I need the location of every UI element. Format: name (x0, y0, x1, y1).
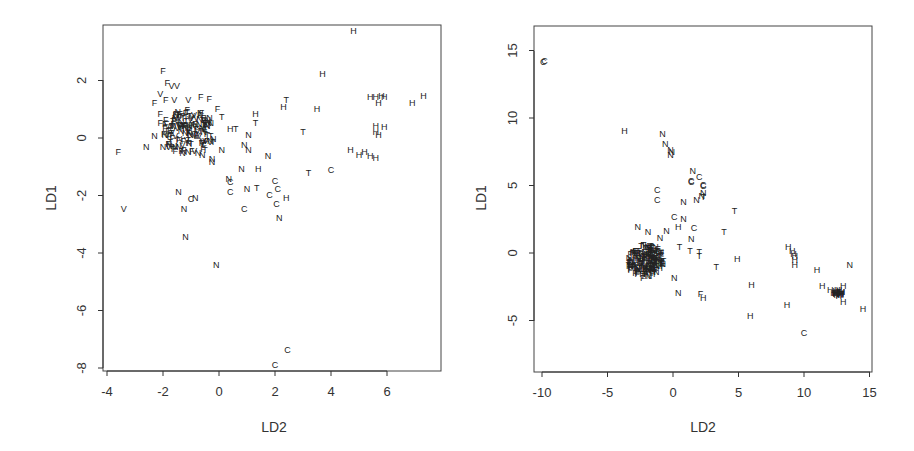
data-point-h: H (280, 102, 287, 112)
data-point-t: T (696, 251, 702, 261)
y-tick-label: -8 (74, 362, 89, 374)
cluster-point: F (199, 138, 205, 148)
data-point-n: N (213, 260, 220, 270)
data-point-h: H (748, 280, 755, 290)
data-point-n: N (659, 129, 666, 139)
x-tick-label: 5 (735, 385, 742, 400)
x-tick-label: 10 (797, 385, 811, 400)
data-point-t: T (713, 262, 719, 272)
data-point-h: H (375, 130, 382, 140)
data-point-n: N (244, 184, 251, 194)
x-tick-label: -5 (602, 385, 614, 400)
data-point-n: N (182, 232, 189, 242)
data-point-t: T (700, 192, 706, 202)
data-point-t: T (677, 242, 683, 252)
data-point-f: F (206, 94, 212, 104)
data-point-n: N (245, 145, 252, 155)
data-point-h: H (700, 293, 707, 303)
right-scatter-plot: -10-5051015 -5051015 LD2 LD1 CCHNNNNNNCC… (473, 26, 877, 435)
data-point-n: N (680, 197, 687, 207)
cluster-point: T (187, 111, 193, 121)
data-point-h: H (350, 26, 357, 36)
data-point-h: H (255, 164, 262, 174)
data-point-h: H (747, 311, 754, 321)
data-point-v: V (171, 95, 177, 105)
x-tick-label: -4 (101, 384, 113, 399)
cluster-point: F (165, 139, 171, 149)
y-axis-title: LD1 (473, 185, 489, 211)
y-axis-title: LD1 (43, 185, 59, 211)
data-point-n: N (265, 151, 272, 161)
data-point-t: T (219, 112, 225, 122)
data-point-n: N (175, 187, 182, 197)
data-point-c: C (266, 190, 273, 200)
data-point-h: H (381, 122, 388, 132)
data-point-n: N (209, 157, 216, 167)
data-point-t: T (233, 124, 239, 134)
data-point-c: C (654, 195, 661, 205)
data-point-h: H (409, 98, 416, 108)
cluster-point: N (192, 120, 199, 130)
data-point-t: T (253, 118, 259, 128)
x-tick-label: 15 (862, 385, 876, 400)
y-axis-ticks: -8-6-4-202 (74, 77, 103, 374)
data-point-h: H (675, 222, 682, 232)
data-point-f: F (152, 98, 158, 108)
data-point-c: C (272, 360, 279, 370)
data-point-n: N (645, 227, 652, 237)
data-point-n: N (675, 288, 682, 298)
data-point-h: H (814, 265, 821, 275)
cluster-point: N (207, 118, 214, 128)
cluster-point: V (169, 121, 175, 131)
x-tick-label: 6 (383, 384, 390, 399)
data-point-c: C (227, 177, 234, 187)
y-tick-label: 10 (505, 111, 520, 125)
data-point-f: F (115, 147, 121, 157)
data-point-c: C (284, 345, 291, 355)
data-point-h: H (621, 126, 628, 136)
y-tick-label: 0 (74, 134, 89, 141)
x-tick-label: 0 (215, 384, 222, 399)
data-point-n: N (276, 213, 283, 223)
data-point-t: T (721, 227, 727, 237)
data-point-n: N (238, 164, 245, 174)
data-point-h: H (283, 193, 290, 203)
figure: -4-20246 -8-6-4-202 LD2 LD1 HHTHHHHHHHHH… (0, 0, 914, 451)
data-point-h: H (734, 254, 741, 264)
data-point-c: C (273, 199, 280, 209)
data-point-n: N (245, 130, 252, 140)
data-point-v: V (174, 81, 180, 91)
data-point-h: H (314, 104, 321, 114)
y-tick-label: 2 (74, 77, 89, 84)
y-tick-label: 15 (505, 43, 520, 57)
data-point-f: F (163, 95, 169, 105)
cluster-point: F (204, 136, 210, 146)
data-point-f: F (198, 92, 204, 102)
data-point-t: T (687, 246, 693, 256)
data-points: CCHNNNNNNCCCCCNNTNCCNTCNHCTNNNNNTTTTTHFF… (540, 56, 866, 339)
cluster-point: F (179, 146, 185, 156)
x-axis-ticks: -10-5051015 (533, 372, 877, 400)
cluster-point: F (173, 146, 179, 156)
y-tick-label: -4 (74, 247, 89, 259)
cluster-point: F (189, 146, 195, 156)
y-tick-label: -6 (74, 305, 89, 317)
y-tick-label: -5 (505, 315, 520, 327)
x-axis-title: LD2 (690, 419, 716, 435)
data-point-c: C (241, 204, 248, 214)
cluster-point: N (201, 127, 208, 137)
data-point-h: H (860, 304, 867, 314)
data-point-c: C (688, 177, 695, 187)
data-point-n: N (693, 195, 700, 205)
y-axis-ticks: -5051015 (505, 43, 534, 326)
cluster-point: N (187, 130, 194, 140)
data-point-n: N (143, 142, 150, 152)
data-point-c: C (691, 223, 698, 233)
data-point-c: C (227, 187, 234, 197)
x-tick-label: -10 (533, 385, 552, 400)
cluster-point: N (176, 134, 183, 144)
data-point-h: H (420, 91, 427, 101)
data-point-n: N (657, 233, 664, 243)
data-point-t: T (254, 183, 260, 193)
data-point-n: N (219, 145, 226, 155)
